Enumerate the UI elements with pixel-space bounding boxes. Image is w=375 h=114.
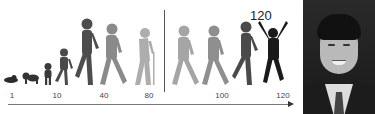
- age-axis-line: [8, 104, 290, 105]
- axis-tick-100: 100: [215, 91, 228, 100]
- axis-tick-80: 80: [145, 91, 154, 100]
- left-eye: [328, 44, 335, 46]
- axis-tick-120: 120: [276, 91, 289, 100]
- child-icon: [54, 48, 74, 85]
- right-eye: [343, 44, 350, 46]
- divider-line: [164, 10, 165, 92]
- elderly-with-cane-icon: [130, 27, 160, 85]
- axis-arrow-icon: [288, 101, 294, 107]
- older-walking-2-icon: [202, 25, 230, 85]
- life-stages-illustration: 120 1 10 40 80 100 120: [0, 0, 300, 114]
- infant-icon: [4, 75, 18, 83]
- smile: [332, 60, 346, 65]
- rejuvenated-walking-icon: [231, 21, 259, 85]
- older-walking-icon: [172, 25, 200, 85]
- axis-tick-1: 1: [10, 91, 14, 100]
- jumping-figure-icon: [258, 19, 288, 85]
- middle-aged-icon: [100, 23, 128, 85]
- adult-icon: [74, 18, 100, 85]
- toddler-icon: [42, 63, 54, 85]
- portrait-photo: [303, 0, 375, 114]
- hair: [317, 14, 361, 40]
- axis-tick-10: 10: [53, 91, 62, 100]
- axis-tick-40: 40: [100, 91, 109, 100]
- age-120-label: 120: [250, 8, 272, 23]
- crawling-baby-icon: [22, 72, 40, 84]
